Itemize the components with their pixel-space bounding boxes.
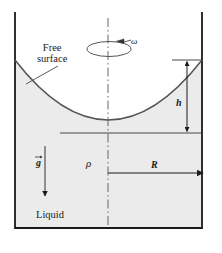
free-surface-label: Free surface: [37, 42, 67, 65]
rotating-liquid-diagram: [0, 0, 222, 253]
density-rho-label: ρ: [86, 158, 91, 170]
free-surface-leader-line: [26, 66, 58, 84]
gravity-g-label: g: [36, 158, 41, 169]
rotation-ellipse: [87, 42, 131, 57]
height-h-label: h: [176, 98, 182, 109]
omega-leader-line: [124, 40, 131, 42]
figure-container: Free surface Liquid ω ρ h R g: [0, 0, 222, 253]
vector-overbar-arrow-icon: [35, 155, 43, 159]
gravity-g-symbol: g: [36, 158, 41, 169]
radius-R-label: R: [151, 160, 158, 171]
free-surface-label-line2: surface: [37, 53, 67, 64]
omega-label: ω: [131, 37, 137, 47]
liquid-label: Liquid: [36, 209, 64, 220]
free-surface-label-line1: Free: [43, 42, 62, 53]
